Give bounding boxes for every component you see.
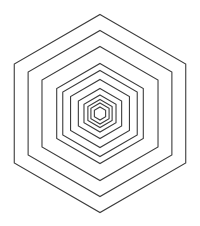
background [0, 0, 200, 226]
concentric-hexagons-diagram [0, 0, 200, 226]
